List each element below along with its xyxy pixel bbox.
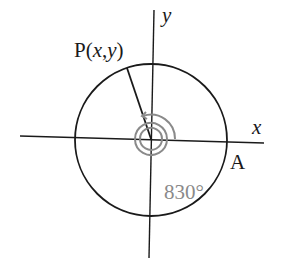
point-p-y: y bbox=[107, 38, 116, 62]
point-a-label: A bbox=[230, 152, 245, 173]
angle-label: 830° bbox=[164, 182, 204, 203]
unit-circle-diagram bbox=[0, 0, 284, 265]
point-p-label: P(x,y) bbox=[74, 40, 124, 61]
rotation-spiral bbox=[135, 112, 175, 155]
point-p-suffix: ) bbox=[117, 38, 124, 62]
point-p-x: x bbox=[93, 38, 102, 62]
x-axis-label: x bbox=[252, 117, 261, 138]
point-p-prefix: P( bbox=[74, 38, 93, 62]
y-axis-label: y bbox=[162, 5, 171, 26]
